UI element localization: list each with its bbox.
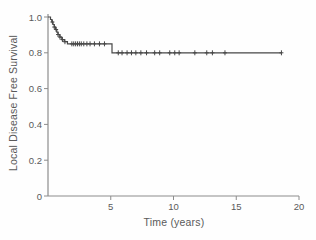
y-tick-label: 0.2 bbox=[29, 155, 42, 166]
km-plot-canvas: 510152000.20.40.60.81.0 bbox=[0, 0, 316, 240]
km-survival-figure: 510152000.20.40.60.81.0 Local Disease Fr… bbox=[0, 0, 316, 240]
x-tick-label: 5 bbox=[108, 201, 113, 212]
x-tick-label: 10 bbox=[168, 201, 179, 212]
y-tick-label: 0.6 bbox=[29, 83, 42, 94]
y-tick-label: 0 bbox=[37, 191, 42, 202]
y-tick-label: 0.4 bbox=[29, 119, 42, 130]
x-axis-title: Time (years) bbox=[144, 216, 205, 228]
x-tick-label: 20 bbox=[294, 201, 305, 212]
y-tick-label: 0.8 bbox=[29, 47, 42, 58]
y-axis-title: Local Disease Free Survival bbox=[7, 35, 19, 171]
y-tick-label: 1.0 bbox=[29, 12, 42, 23]
survival-curve bbox=[48, 17, 281, 53]
x-tick-label: 15 bbox=[231, 201, 242, 212]
